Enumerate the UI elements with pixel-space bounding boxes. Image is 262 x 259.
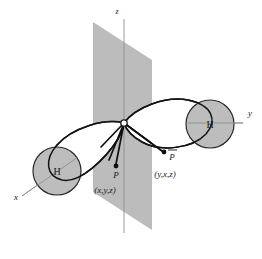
- origin-marker: [121, 120, 127, 126]
- point-coords-p-bar: (y,x,z): [154, 169, 176, 179]
- atom-label-h-right: H: [206, 119, 213, 130]
- point-p-dot: [114, 164, 119, 169]
- axis-label-x: x: [13, 192, 18, 202]
- point-label-p: P: [112, 170, 119, 180]
- molecular-mirror-plane-figure: z y x H H P (x,y,z) P (y,x,z): [0, 0, 262, 259]
- axis-label-z: z: [114, 7, 119, 16]
- point-label-p-bar: P: [168, 152, 175, 162]
- point-p-bar-dot: [162, 150, 167, 155]
- point-coords-p: (x,y,z): [94, 185, 116, 195]
- figure-canvas: z y x H H P (x,y,z) P (y,x,z): [0, 0, 262, 259]
- axis-label-y: y: [247, 108, 252, 118]
- atom-label-h-left: H: [53, 166, 60, 177]
